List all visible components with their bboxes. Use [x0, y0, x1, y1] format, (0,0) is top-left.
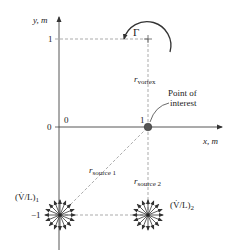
source2-icon: [133, 200, 163, 230]
point-of-interest-marker: [144, 123, 152, 131]
diagram-canvas: Γ: [0, 0, 228, 250]
y-tick-1-label: 1: [48, 34, 53, 44]
source1-icon: [45, 200, 75, 230]
point-of-interest-leader-line: [150, 103, 169, 122]
source2-strength-label: (V̇/L)2: [170, 200, 195, 212]
r-vortex-label: rvortex: [134, 74, 156, 86]
y-axis-label: y, m: [32, 15, 48, 25]
r-source1-label: rsource 1: [89, 165, 117, 177]
x-tick-1-label: 1: [140, 115, 145, 125]
point-of-interest-label-line2: interest: [170, 98, 197, 108]
source1-strength-label: (V̇/L)1: [15, 192, 40, 204]
y-tick-neg1-label: −1: [31, 210, 41, 220]
vortex: Γ: [124, 22, 171, 52]
vortex-rotation-arrow-icon: [124, 22, 171, 52]
point-of-interest-label-line1: Point of: [168, 88, 197, 98]
x-tick-0-label: 0: [64, 115, 69, 125]
vortex-gamma-label: Γ: [133, 26, 139, 38]
y-tick-0-label: 0: [47, 122, 52, 132]
x-axis-label: x, m: [202, 136, 218, 146]
